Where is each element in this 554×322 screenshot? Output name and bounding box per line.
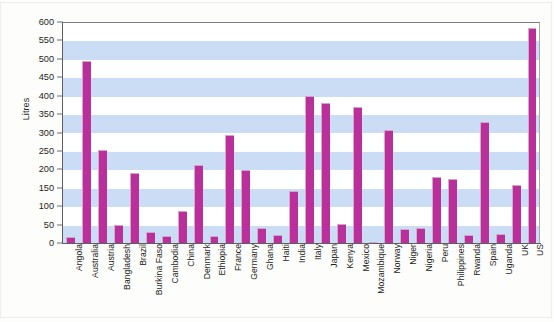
bar [448, 179, 457, 243]
bar [321, 103, 330, 243]
y-tick-label: 250 [14, 146, 54, 156]
bar [130, 173, 139, 243]
x-tick-label: Denmark [202, 244, 212, 279]
x-tick-label: Uganda [504, 244, 514, 274]
bar [464, 235, 473, 243]
bar [194, 165, 203, 243]
bar [384, 130, 393, 243]
y-axis-ticks: 050100150200250300350400450500550600 [0, 0, 63, 322]
bar-series [63, 22, 540, 243]
x-tick-label: Nigeria [424, 244, 434, 272]
bar [289, 191, 298, 243]
x-tick-label: France [233, 244, 243, 271]
x-tick-label: Philippines [456, 244, 466, 286]
x-tick-label: Ethiopia [217, 244, 227, 275]
bar [528, 28, 537, 243]
bar [337, 224, 346, 243]
y-tick-label: 100 [14, 201, 54, 211]
x-tick-label: Mozambique [376, 244, 386, 294]
bar [210, 236, 219, 243]
bar [416, 228, 425, 243]
x-tick-label: Burkina Faso [154, 244, 164, 295]
x-tick-label: Norway [392, 244, 402, 273]
bar [66, 237, 75, 243]
bar [432, 177, 441, 243]
y-tick-label: 150 [14, 183, 54, 193]
x-tick-label: Brazil [138, 244, 148, 266]
bar [480, 122, 489, 243]
x-tick-label: India [297, 244, 307, 263]
x-tick-label: UK [520, 244, 530, 256]
bar [305, 96, 314, 243]
bar [257, 228, 266, 243]
x-tick-label: Cambodia [170, 244, 180, 284]
x-tick-label: Peru [440, 244, 450, 262]
y-tick-label: 600 [14, 17, 54, 27]
y-tick-label: 550 [14, 35, 54, 45]
x-tick-label: Kenya [345, 244, 355, 269]
y-tick-label: 450 [14, 72, 54, 82]
x-tick-label: Rwanda [472, 244, 482, 276]
y-tick-label: 500 [14, 54, 54, 64]
y-tick-label: 350 [14, 109, 54, 119]
bar [496, 234, 505, 243]
x-tick-label: Japan [329, 244, 339, 268]
bar [178, 211, 187, 243]
x-tick-label: Ghana [265, 244, 275, 270]
x-tick-label: Italy [313, 244, 323, 260]
chart-screenshot: Litres 050100150200250300350400450500550… [0, 0, 554, 322]
y-tick-label: 0 [14, 238, 54, 248]
y-tick-label: 400 [14, 91, 54, 101]
bar [225, 135, 234, 243]
x-axis-labels: AngolaAustraliaAustriaBangladeshBrazilBu… [63, 244, 540, 322]
bar [114, 225, 123, 243]
x-tick-label: Australia [90, 244, 100, 278]
bar [512, 185, 521, 243]
x-tick-label: US [535, 244, 545, 256]
x-tick-label: Bangladesh [122, 244, 132, 290]
bar [353, 107, 362, 243]
bar [162, 236, 171, 243]
bar [273, 235, 282, 243]
bar [241, 170, 250, 243]
y-tick-label: 50 [14, 220, 54, 230]
bar [146, 232, 155, 243]
x-tick-label: China [186, 244, 196, 267]
x-tick-label: Germany [249, 244, 259, 280]
x-tick-label: Haiti [281, 244, 291, 261]
bar [98, 150, 107, 243]
x-tick-label: Angola [74, 244, 84, 271]
x-tick-label: Spain [488, 244, 498, 266]
bar [400, 229, 409, 243]
x-tick-label: Niger [408, 244, 418, 265]
bar [82, 61, 91, 243]
x-tick-label: Mexico [361, 244, 371, 272]
y-tick-label: 200 [14, 164, 54, 174]
x-tick-label: Austria [106, 244, 116, 271]
y-tick-label: 300 [14, 128, 54, 138]
